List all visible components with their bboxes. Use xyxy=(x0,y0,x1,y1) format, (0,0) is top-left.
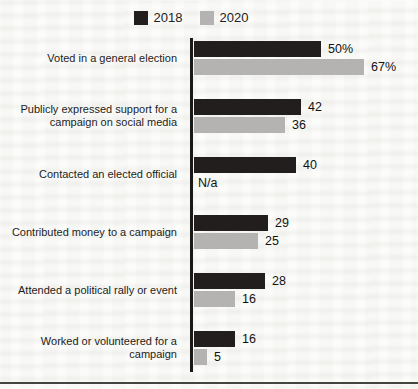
bar-row-2020: 36 xyxy=(194,117,322,133)
bar-2018 xyxy=(194,41,321,57)
value-label: 40 xyxy=(303,158,317,172)
bar-row-2020: 67% xyxy=(194,59,396,75)
bar-row-2018: 29 xyxy=(194,215,289,231)
bar-pair: 50%67% xyxy=(194,41,396,75)
chart-group: Worked or volunteered for a campaign165 xyxy=(0,331,396,365)
category-label: Voted in a general election xyxy=(0,52,184,65)
value-label: 67% xyxy=(371,60,396,74)
value-label: 28 xyxy=(272,274,286,288)
value-label: 25 xyxy=(265,234,279,248)
na-label: N/a xyxy=(198,176,217,190)
category-label: Worked or volunteered for a campaign xyxy=(0,335,184,361)
chart-group: Voted in a general election50%67% xyxy=(0,41,396,75)
scanned-chart-page: 2018 2020 Voted in a general election50%… xyxy=(0,0,418,389)
legend-swatch-2018 xyxy=(134,11,148,25)
bar-2020 xyxy=(194,233,258,249)
chart-group: Publicly expressed support for a campaig… xyxy=(0,99,396,133)
bar-row-2020: 16 xyxy=(194,291,286,307)
bar-pair: 165 xyxy=(194,331,256,365)
bar-row-2018: 28 xyxy=(194,273,286,289)
value-label: 16 xyxy=(242,292,256,306)
legend-label-2020: 2020 xyxy=(220,10,249,25)
chart-legend: 2018 2020 xyxy=(0,10,382,25)
bar-pair: 2816 xyxy=(194,273,286,307)
value-label: 29 xyxy=(275,216,289,230)
category-label: Attended a political rally or event xyxy=(0,284,184,297)
bar-chart-groups: Voted in a general election50%67%Publicl… xyxy=(0,41,396,365)
bar-row-2018: 16 xyxy=(194,331,256,347)
bar-pair: 40N/a xyxy=(194,157,317,191)
value-label: 50% xyxy=(328,42,353,56)
value-label: 16 xyxy=(242,332,256,346)
bar-pair: 4236 xyxy=(194,99,322,133)
bar-row-2018: 42 xyxy=(194,99,322,115)
bar-2018 xyxy=(194,273,265,289)
bar-2018 xyxy=(194,215,268,231)
bar-2018 xyxy=(194,157,296,173)
legend-item-2018: 2018 xyxy=(134,10,183,25)
bar-row-2018: 40 xyxy=(194,157,317,173)
chart-group: Contacted an elected official40N/a xyxy=(0,157,396,191)
legend-label-2018: 2018 xyxy=(154,10,183,25)
bar-2018 xyxy=(194,99,301,115)
value-label: 42 xyxy=(308,100,322,114)
bar-2020 xyxy=(194,291,235,307)
bar-2018 xyxy=(194,331,235,347)
category-label: Publicly expressed support for a campaig… xyxy=(0,103,184,129)
bar-row-2020: N/a xyxy=(194,175,317,191)
bar-row-2020: 25 xyxy=(194,233,289,249)
bar-row-2020: 5 xyxy=(194,349,256,365)
bar-row-2018: 50% xyxy=(194,41,396,57)
chart-group: Contributed money to a campaign2925 xyxy=(0,215,396,249)
category-label: Contacted an elected official xyxy=(0,168,184,181)
legend-item-2020: 2020 xyxy=(200,10,249,25)
chart-group: Attended a political rally or event2816 xyxy=(0,273,396,307)
category-label: Contributed money to a campaign xyxy=(0,226,184,239)
bar-pair: 2925 xyxy=(194,215,289,249)
value-label: 5 xyxy=(214,350,221,364)
bottom-rule xyxy=(0,382,418,384)
value-label: 36 xyxy=(292,118,306,132)
bar-2020 xyxy=(194,117,285,133)
bar-2020 xyxy=(194,59,364,75)
bar-2020 xyxy=(194,349,207,365)
legend-swatch-2020 xyxy=(200,11,214,25)
